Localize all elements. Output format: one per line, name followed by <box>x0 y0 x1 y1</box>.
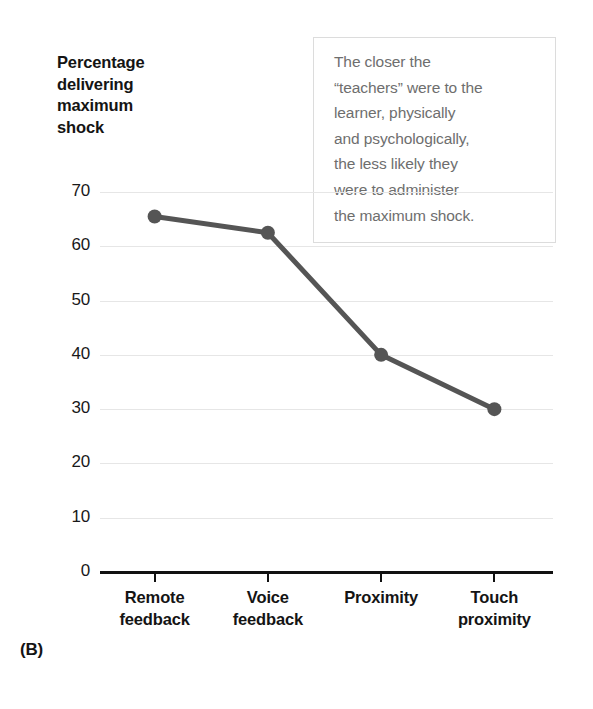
x-tick-label: Touch proximity <box>424 586 564 630</box>
data-point-marker <box>487 402 501 416</box>
plot-area: 010203040506070 Remote feedbackVoice fee… <box>0 0 593 709</box>
panel-label: (B) <box>20 640 43 660</box>
data-line <box>155 216 495 409</box>
chart-figure: Percentage delivering maximum shock The … <box>0 0 593 709</box>
x-tick <box>380 574 382 582</box>
data-point-marker <box>261 226 275 240</box>
x-axis-line <box>100 571 553 574</box>
data-point-marker <box>374 348 388 362</box>
x-tick <box>154 574 156 582</box>
x-tick <box>267 574 269 582</box>
data-point-marker <box>148 209 162 223</box>
x-tick <box>493 574 495 582</box>
